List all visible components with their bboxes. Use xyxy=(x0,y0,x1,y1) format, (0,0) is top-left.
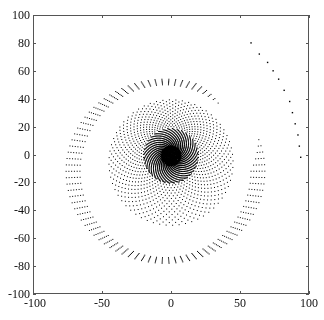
y-tick-label: 60 xyxy=(0,65,30,77)
y-tick-label: -40 xyxy=(0,204,30,216)
x-tick-label: -100 xyxy=(15,297,55,309)
y-tick-label: -20 xyxy=(0,176,30,188)
y-tick-label: 40 xyxy=(0,93,30,105)
x-tick-label: -50 xyxy=(82,297,122,309)
y-tick-label: 0 xyxy=(0,149,30,161)
y-tick-label: 20 xyxy=(0,121,30,133)
y-tick-label: -60 xyxy=(0,232,30,244)
y-tick-label: 100 xyxy=(0,9,30,21)
x-tick-label: 50 xyxy=(220,297,260,309)
y-tick-label: -80 xyxy=(0,260,30,272)
x-tick-label: 0 xyxy=(151,297,191,309)
axes-frame xyxy=(33,15,309,294)
y-tick-label: 80 xyxy=(0,37,30,49)
x-tick-label: 100 xyxy=(289,297,324,309)
